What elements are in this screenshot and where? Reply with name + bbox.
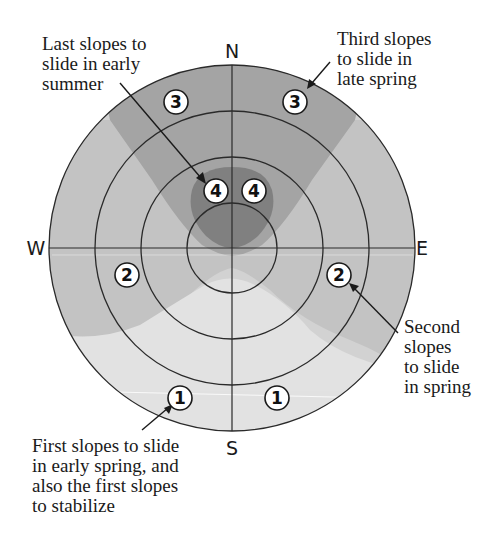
badge-4-right: 4 bbox=[242, 179, 266, 203]
annotation-third: Third slopes to slide in late spring bbox=[337, 28, 431, 89]
leader-third bbox=[307, 62, 330, 89]
svg-text:2: 2 bbox=[121, 265, 133, 285]
svg-text:3: 3 bbox=[170, 92, 182, 112]
svg-text:to stabilize: to stabilize bbox=[32, 495, 115, 516]
badge-1-sw: 1 bbox=[168, 386, 192, 410]
annotation-first: First slopes to slide in early spring, a… bbox=[32, 435, 179, 516]
svg-text:2: 2 bbox=[333, 265, 345, 285]
svg-text:summer: summer bbox=[42, 73, 104, 94]
aspect-diagram: N S W E 3 3 4 4 2 2 bbox=[0, 0, 501, 540]
compass-e: E bbox=[416, 237, 428, 259]
svg-text:4: 4 bbox=[248, 181, 260, 201]
badge-2-w: 2 bbox=[115, 263, 139, 287]
svg-text:in early spring, and: in early spring, and bbox=[32, 455, 179, 476]
compass-s: S bbox=[226, 437, 238, 459]
badge-3-nw: 3 bbox=[164, 90, 188, 114]
badge-4-left: 4 bbox=[204, 179, 228, 203]
annotation-last: Last slopes to slide in early summer bbox=[42, 33, 147, 94]
svg-text:Second: Second bbox=[404, 316, 460, 337]
svg-text:also the first slopes: also the first slopes bbox=[32, 475, 178, 496]
badge-1-se: 1 bbox=[265, 386, 289, 410]
svg-text:First slopes to slide: First slopes to slide bbox=[32, 435, 179, 456]
svg-text:slopes: slopes bbox=[404, 336, 452, 357]
svg-text:1: 1 bbox=[271, 388, 283, 408]
svg-text:to slide: to slide bbox=[404, 356, 459, 377]
svg-text:3: 3 bbox=[289, 92, 301, 112]
compass-w: W bbox=[27, 237, 46, 259]
svg-text:Third slopes: Third slopes bbox=[337, 28, 431, 49]
svg-text:in spring: in spring bbox=[404, 376, 472, 397]
compass-n: N bbox=[225, 40, 239, 62]
badge-3-ne: 3 bbox=[283, 90, 307, 114]
svg-text:1: 1 bbox=[174, 388, 186, 408]
svg-text:Last slopes to: Last slopes to bbox=[42, 33, 147, 54]
svg-text:to slide in: to slide in bbox=[337, 48, 412, 69]
svg-text:4: 4 bbox=[210, 181, 222, 201]
svg-text:slide in early: slide in early bbox=[42, 53, 141, 74]
annotation-second: Second slopes to slide in spring bbox=[404, 316, 472, 397]
badge-2-e: 2 bbox=[327, 263, 351, 287]
svg-text:late spring: late spring bbox=[337, 68, 417, 89]
